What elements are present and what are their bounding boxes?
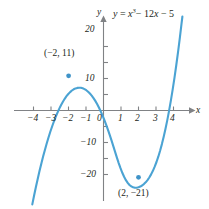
y-axis [100, 16, 108, 202]
equation-equals: = [120, 8, 126, 19]
x-tick-label-2: 2 [135, 114, 140, 124]
x-tick-label-0: 0 [97, 114, 102, 124]
equation-label: y = x3− 12x − 5 [113, 9, 174, 19]
x-tick-label-3: 3 [153, 114, 158, 124]
x-tick-label-1: 1 [118, 114, 123, 124]
x-axis-label: x [196, 106, 200, 116]
x-tick-label--4: −4 [27, 114, 38, 124]
x-tick-label--1: −1 [80, 114, 91, 124]
local-min-label: (2, −21) [118, 189, 149, 199]
y-tick-label--10: −10 [80, 138, 96, 148]
x-tick-label--3: −3 [45, 114, 56, 124]
equation-term2: − 12 [136, 8, 154, 19]
plot-canvas [0, 0, 209, 209]
local-max-marker [66, 73, 71, 78]
y-tick-label-20: 20 [85, 25, 95, 35]
y-tick-label-10: 10 [85, 74, 95, 84]
cubic-function-graph: −4 −3 −2 −1 0 1 2 3 4 20 10 −10 −20 x y … [0, 0, 209, 209]
y-axis-label: y [97, 8, 101, 18]
y-tick-label--20: −20 [80, 170, 96, 180]
x-tick-label-4: 4 [170, 114, 175, 124]
local-min-marker [136, 175, 141, 180]
equation-term2-var: x [154, 8, 158, 19]
equation-term3: − 5 [161, 8, 174, 19]
equation-lhs: y [113, 8, 117, 19]
x-tick-label--2: −2 [62, 114, 73, 124]
local-max-label: (−2, 11) [44, 49, 74, 59]
